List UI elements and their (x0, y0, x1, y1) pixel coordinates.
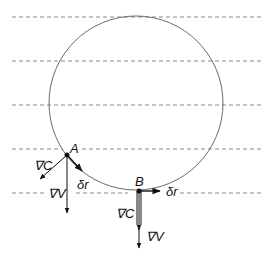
label-dr-b: δr (166, 184, 178, 199)
label-grad-c-a: ∇C (34, 158, 53, 173)
label-dr-a: δr (77, 177, 89, 192)
constraint-diagram: A ∇C ∇V δr B δr ∇C ∇V (0, 0, 272, 260)
label-grad-v-b: ∇V (146, 229, 165, 244)
point-b-dot (137, 189, 142, 194)
label-b: B (135, 174, 144, 189)
label-a: A (69, 141, 79, 156)
label-grad-v-a: ∇V (48, 186, 67, 201)
point-a-dot (65, 153, 70, 158)
label-grad-c-b: ∇C (116, 206, 135, 221)
dr-vector-a (67, 155, 82, 171)
